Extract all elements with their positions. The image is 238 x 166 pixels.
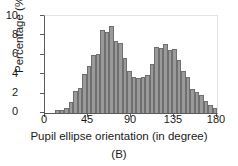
y-tick-label-0: 0 [0,106,18,117]
x-tick-label-90: 90 [113,114,147,125]
y-tick-label-2: 2 [0,87,18,98]
x-tick-label-180: 180 [199,114,233,125]
histogram-bars [45,16,217,113]
figure-caption: (B) [0,148,238,160]
x-tick-label-135: 135 [156,114,190,125]
y-tick-label-10: 10 [0,10,18,21]
y-tick-label-6: 6 [0,48,18,59]
y-tick-label-8: 8 [0,29,18,40]
x-tick-label-0: 0 [27,114,61,125]
figure-container: Percentage (%) 10 8 6 4 2 0 0 45 90 135 … [0,0,238,166]
x-axis-label: Pupil ellipse orientation (in degree) [0,130,238,142]
x-tick-label-45: 45 [70,114,104,125]
plot-area [44,15,218,114]
y-tick-label-4: 4 [0,68,18,79]
